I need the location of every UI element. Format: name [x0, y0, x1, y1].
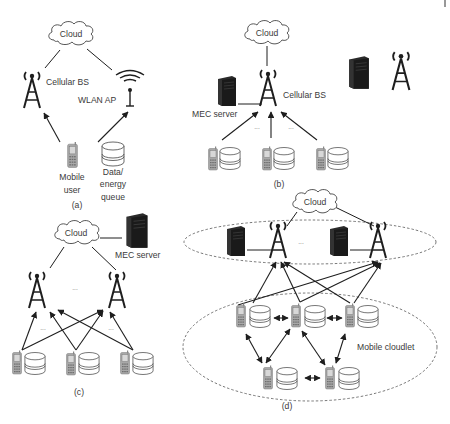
- data-queue-icon: [25, 353, 45, 375]
- cellular-bs-label: Cellular BS: [46, 77, 89, 87]
- cloud-icon: Cloud: [49, 22, 93, 45]
- data-queue-icon: [220, 148, 240, 170]
- mobile-cloudlet-label: Mobile cloudlet: [357, 342, 415, 352]
- user-group: [13, 351, 46, 375]
- cellular-tower-icon: [109, 272, 125, 308]
- cloud-icon: Cloud: [55, 221, 99, 244]
- cloudlet-node: [237, 304, 271, 328]
- panel-d: Cloud ···: [183, 190, 437, 411]
- mec-server-icon: [349, 56, 369, 89]
- data-queue-icon: [250, 306, 270, 328]
- svg-text:Cloud: Cloud: [256, 28, 279, 38]
- mobile-user-label: Mobile: [59, 172, 85, 182]
- queue-label-2: energy: [100, 179, 127, 189]
- mobile-user-icon: [292, 304, 301, 328]
- edge-layer-boundary: [184, 220, 436, 264]
- mobile-user-icon: [346, 304, 355, 328]
- cloudlet-node: [326, 366, 360, 390]
- panel-b-caption: (b): [274, 179, 285, 189]
- data-queue-icon: [358, 306, 378, 328]
- mobile-user-icon: [237, 304, 246, 328]
- panel-c-caption: (c): [74, 387, 84, 397]
- mobile-user-icon: [67, 352, 76, 376]
- ellipsis: ···: [40, 326, 46, 333]
- cloud-icon: Cloud: [293, 190, 337, 213]
- cloud-icon: Cloud: [245, 21, 289, 44]
- ellipsis: ···: [108, 326, 114, 333]
- cellular-tower-icon: [270, 222, 286, 258]
- svg-text:Cloud: Cloud: [60, 29, 83, 39]
- mobile-user-icon: [13, 351, 22, 375]
- mec-server-icon: [330, 226, 348, 256]
- ellipsis: ···: [72, 286, 78, 293]
- cloudlet-node: [292, 304, 326, 328]
- mec-server-icon: [218, 76, 236, 106]
- data-queue-icon: [328, 148, 348, 170]
- cellular-tower-icon: [260, 70, 276, 106]
- user-group: [121, 351, 154, 375]
- mec-server-icon: [127, 213, 148, 248]
- mobile-user-icon: [68, 142, 78, 167]
- user-group: [317, 147, 349, 171]
- wlan-ap-label: WLAN AP: [78, 95, 116, 105]
- data-queue-icon: [79, 353, 99, 375]
- panel-a-caption: (a): [72, 200, 83, 210]
- wlan-ap-icon: [116, 71, 144, 107]
- data-queue-icon: [133, 353, 153, 375]
- ellipsis: ···: [288, 125, 294, 132]
- cellular-tower-icon: [393, 52, 410, 90]
- svg-text:Cloud: Cloud: [65, 228, 88, 238]
- svg-text:Cloud: Cloud: [304, 197, 327, 207]
- ellipsis: ···: [298, 240, 304, 247]
- mobile-user-icon: [121, 351, 130, 375]
- figure-canvas: Cloud Cellular BS WLAN AP Mobile user Da…: [0, 0, 450, 424]
- mobile-user-icon: [326, 366, 335, 390]
- mobile-user-icon: [263, 147, 272, 171]
- queue-label-3: queue: [101, 192, 125, 202]
- panel-a: Cloud Cellular BS WLAN AP Mobile user Da…: [24, 22, 144, 210]
- queue-label: Data/: [103, 167, 124, 177]
- mobile-user-icon: [317, 147, 326, 171]
- cellular-bs-label: Cellular BS: [283, 90, 326, 100]
- panel-d-caption: (d): [282, 401, 293, 411]
- user-group: [67, 352, 100, 376]
- mec-server-label: MEC server: [115, 250, 160, 260]
- data-queue-icon: [305, 306, 325, 328]
- user-group: [209, 147, 241, 171]
- data-queue-icon: [339, 368, 359, 390]
- mobile-user-icon: [209, 147, 218, 171]
- data-energy-queue-icon: [102, 142, 124, 166]
- mobile-user-icon: [264, 366, 273, 390]
- data-queue-icon: [274, 148, 294, 170]
- panel-b: Cloud Cellular BS MEC server ··· ··· (b): [192, 21, 409, 189]
- cloudlet-node: [346, 304, 379, 328]
- mec-server-label: MEC server: [192, 109, 237, 119]
- panel-c: Cloud MEC server ··· ··· ··· (c): [13, 213, 161, 397]
- mec-architecture-figure: Cloud Cellular BS WLAN AP Mobile user Da…: [0, 0, 450, 424]
- cellular-tower-icon: [29, 272, 45, 308]
- ellipsis: ···: [254, 125, 260, 132]
- cellular-tower-icon: [370, 222, 386, 258]
- mobile-user-label-2: user: [64, 185, 81, 195]
- cloudlet-node: [264, 366, 298, 390]
- mec-server-icon: [227, 226, 245, 256]
- user-group: [263, 147, 295, 171]
- cellular-tower-icon: [24, 72, 40, 108]
- data-queue-icon: [277, 368, 297, 390]
